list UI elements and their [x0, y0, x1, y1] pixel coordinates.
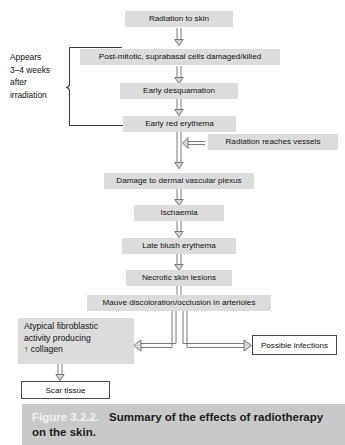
node-scar-tissue: Scar tissue — [21, 381, 110, 399]
node-damage-to-plexus: Damage to dermal vascular plexus — [104, 173, 254, 189]
node-mauve-discoloration: Mauve discoloration/occlusion in arterio… — [87, 295, 271, 311]
node-early-red-erythema: Early red erythema — [123, 116, 236, 132]
node-early-desquamation: Early desquamation — [120, 83, 238, 99]
caption-figure-number: Figure 3.2.2. — [32, 411, 99, 423]
node-radiation-to-skin: Radiation to skin — [125, 11, 233, 27]
arrow-ischaemia-to-lateblush — [175, 221, 183, 238]
atypical-line-2: activity producing — [24, 333, 129, 345]
atypical-line-3: ↑ collagen — [24, 344, 129, 356]
node-radiation-reaches-vessels: Radiation reaches vessels — [208, 134, 338, 150]
arrow-fibroblastic-to-scar — [56, 364, 64, 381]
arrow-erythema-to-plexus — [175, 132, 183, 169]
arrow-radiation-to-postmitotic — [175, 28, 183, 46]
caption-title-line1: Summary of the effects of radiotherapy — [109, 411, 323, 423]
arrow-plexus-to-ischaemia — [175, 189, 183, 206]
arrow-vessels-to-stem — [183, 138, 206, 149]
node-late-blush-erythema: Late blush erythema — [122, 238, 236, 254]
node-post-mitotic: Post-mitotic, suprabasal cells damaged/k… — [80, 49, 280, 65]
caption-title-line2: on the skin. — [32, 425, 345, 440]
atypical-line-1: Atypical fibroblastic — [24, 321, 129, 333]
figure-caption-bar: Figure 3.2.2.Summary of the effects of r… — [22, 404, 345, 445]
figure-container: Appears 3–4 weeks after irradiation Radi… — [0, 0, 345, 445]
arrow-mauve-to-fibroblastic — [134, 311, 177, 351]
node-possible-infections: Possible infections — [252, 335, 337, 355]
node-necrotic-skin-lesions: Necrotic skin lesions — [126, 270, 232, 286]
arrow-postmitotic-to-desquamation — [175, 66, 183, 84]
arrow-lateblush-to-necrotic — [175, 254, 183, 271]
caption-line-1: Figure 3.2.2.Summary of the effects of r… — [32, 410, 345, 425]
node-ischaemia: Ischaemia — [134, 205, 224, 221]
arrow-desquamation-to-erythema — [175, 99, 183, 116]
arrow-mauve-to-infections — [183, 311, 252, 351]
bracket-label: Appears 3–4 weeks after irradiation — [10, 51, 68, 101]
node-atypical-fibroblastic: Atypical fibroblastic activity producing… — [18, 318, 134, 364]
